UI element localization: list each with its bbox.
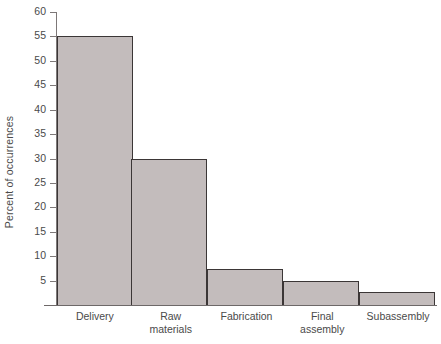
x-axis-label-raw-materials: Rawmaterials bbox=[133, 310, 209, 336]
bar-fabrication bbox=[207, 269, 283, 305]
x-axis-label-line: Delivery bbox=[57, 310, 133, 323]
x-axis-label-fabrication: Fabrication bbox=[209, 310, 285, 323]
y-axis-tick-label-wrap: 55 bbox=[22, 36, 46, 37]
y-axis-tick-label-wrap: 35 bbox=[22, 134, 46, 135]
y-axis-tick-label: 30 bbox=[24, 153, 46, 164]
y-axis-tick bbox=[50, 159, 57, 160]
x-axis-label-line: Fabrication bbox=[209, 310, 285, 323]
y-axis-tick-label: 40 bbox=[24, 104, 46, 115]
y-axis-title: Percent of occurrences bbox=[0, 0, 18, 344]
y-axis-tick-label-wrap: 50 bbox=[22, 61, 46, 62]
y-axis-tick-label-wrap: 10 bbox=[22, 256, 46, 257]
bar-raw-materials bbox=[131, 159, 207, 306]
y-axis-tick-label: 35 bbox=[24, 128, 46, 139]
y-axis-tick-label-wrap: 15 bbox=[22, 232, 46, 233]
y-axis-tick-label: 60 bbox=[24, 6, 46, 17]
y-axis-tick-label-wrap: 30 bbox=[22, 159, 46, 160]
bar-delivery bbox=[57, 36, 133, 305]
y-axis-tick bbox=[50, 281, 57, 282]
y-axis-tick bbox=[50, 36, 57, 37]
y-axis-tick bbox=[50, 256, 57, 257]
bars-container bbox=[57, 12, 436, 305]
x-axis-label-line: Raw bbox=[133, 310, 209, 323]
y-axis-tick-label: 45 bbox=[24, 79, 46, 90]
y-axis-tick-label: 15 bbox=[24, 226, 46, 237]
x-axis-label-delivery: Delivery bbox=[57, 310, 133, 323]
y-axis-tick-label: 25 bbox=[24, 177, 46, 188]
x-axis-label-final-assembly: Finalassembly bbox=[284, 310, 360, 336]
y-axis-tick bbox=[50, 183, 57, 184]
y-axis-tick bbox=[50, 110, 57, 111]
y-axis-tick bbox=[50, 232, 57, 233]
bar-final-assembly bbox=[283, 281, 359, 305]
y-axis-tick-label: 10 bbox=[24, 250, 46, 261]
x-axis-label-subassembly: Subassembly bbox=[360, 310, 436, 323]
bar-subassembly bbox=[359, 292, 435, 305]
y-axis-tick bbox=[50, 61, 57, 62]
y-axis-tick-label-wrap: 20 bbox=[22, 207, 46, 208]
y-axis-tick-label: 5 bbox=[24, 275, 46, 286]
pareto-bar-chart: Percent of occurrences 51015202530354045… bbox=[0, 0, 441, 344]
y-axis-tick bbox=[50, 12, 57, 13]
y-axis-tick-label: 50 bbox=[24, 55, 46, 66]
y-axis-tick-label-wrap: 60 bbox=[22, 12, 46, 13]
y-axis-tick bbox=[50, 207, 57, 208]
y-axis-tick bbox=[50, 85, 57, 86]
y-axis-tick-label-wrap: 25 bbox=[22, 183, 46, 184]
y-axis-tick-label: 55 bbox=[24, 30, 46, 41]
y-axis-tick-label-wrap: 40 bbox=[22, 110, 46, 111]
y-axis-tick bbox=[50, 134, 57, 135]
x-axis-label-line: Final bbox=[284, 310, 360, 323]
x-axis-line bbox=[44, 305, 437, 306]
y-axis-tick-label-wrap: 45 bbox=[22, 85, 46, 86]
y-axis-tick-label: 20 bbox=[24, 201, 46, 212]
x-axis-label-line: assembly bbox=[284, 323, 360, 336]
y-axis-tick-label-wrap: 5 bbox=[22, 281, 46, 282]
x-axis-label-line: Subassembly bbox=[360, 310, 436, 323]
x-axis-label-line: materials bbox=[133, 323, 209, 336]
